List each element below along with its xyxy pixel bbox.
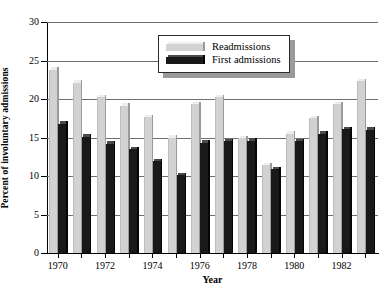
bar-first-admissions	[271, 169, 279, 253]
bar-group	[120, 22, 137, 253]
bar-readmissions	[191, 104, 199, 253]
bar-first-admissions	[177, 175, 185, 253]
bar-readmissions	[262, 165, 270, 253]
y-axis-tick-label: 25	[29, 56, 39, 66]
bar-chart: Percent of involuntary admissions 051015…	[0, 0, 392, 300]
x-axis-tick	[271, 253, 272, 258]
y-axis-title: Percent of involuntary admissions	[0, 22, 12, 253]
bar-first-admissions	[129, 149, 137, 253]
bar-first-admissions	[58, 124, 66, 253]
y-axis-tick-label: 0	[34, 248, 39, 258]
y-axis-title-text: Percent of involuntary admissions	[0, 67, 10, 208]
bar-group	[333, 22, 350, 253]
x-axis-tick	[129, 253, 130, 258]
bar-first-admissions	[247, 141, 255, 253]
y-axis-tick-label: 10	[29, 171, 39, 181]
bar-group	[97, 22, 114, 253]
y-axis-tick-label: 15	[29, 133, 39, 143]
bar-readmissions	[49, 70, 57, 253]
bar-readmissions	[73, 83, 81, 253]
bar-readmissions	[238, 138, 246, 253]
y-axis-tick-label: 20	[29, 94, 39, 104]
bar-first-admissions	[224, 141, 232, 253]
x-axis-tick	[200, 253, 201, 258]
x-axis-tick-label: 1980	[284, 261, 304, 271]
bar-first-admissions	[200, 143, 208, 253]
x-axis-tick-label: 1978	[237, 261, 257, 271]
bar-readmissions	[286, 134, 294, 253]
bar-group	[357, 22, 374, 253]
x-axis-title: Year	[47, 274, 378, 285]
x-axis-tick	[105, 253, 106, 258]
bar-readmissions	[333, 104, 341, 253]
x-axis-tick	[294, 253, 295, 258]
x-axis-tick	[318, 253, 319, 258]
bar-readmissions	[357, 81, 365, 253]
legend-swatch-first	[166, 57, 203, 64]
bar-group	[49, 22, 66, 253]
chart-legend: ReadmissionsFirst admissions	[158, 35, 290, 73]
bar-readmissions	[215, 97, 223, 253]
y-axis-tick-label: 30	[29, 17, 39, 27]
x-axis-tick-label: 1970	[48, 261, 68, 271]
bar-first-admissions	[342, 129, 350, 253]
legend-label: First admissions	[212, 55, 281, 66]
bar-first-admissions	[106, 144, 114, 253]
x-axis-tick	[81, 253, 82, 258]
x-axis-tick	[365, 253, 366, 258]
x-axis-tick	[342, 253, 343, 258]
x-axis-tick	[223, 253, 224, 258]
bar-readmissions	[120, 106, 128, 253]
bar-group	[309, 22, 326, 253]
x-axis-tick-label: 1972	[95, 261, 115, 271]
x-axis-tick-label: 1974	[142, 261, 162, 271]
bar-first-admissions	[318, 134, 326, 253]
bar-first-admissions	[366, 130, 374, 253]
x-axis-tick	[247, 253, 248, 258]
bar-first-admissions	[295, 141, 303, 253]
x-axis-tick	[152, 253, 153, 258]
bar-first-admissions	[82, 137, 90, 253]
x-axis-tick-label: 1982	[332, 261, 352, 271]
legend-item: First admissions	[166, 54, 281, 67]
y-axis-tick-label: 5	[34, 210, 39, 220]
bar-readmissions	[144, 117, 152, 253]
x-axis-tick-label: 1976	[190, 261, 210, 271]
bar-readmissions	[97, 97, 105, 253]
legend-swatch-read	[166, 44, 203, 51]
bar-readmissions	[168, 138, 176, 254]
x-axis-tick	[176, 253, 177, 258]
bar-readmissions	[309, 118, 317, 253]
bar-first-admissions	[153, 161, 161, 253]
legend-item: Readmissions	[166, 41, 281, 54]
bar-group	[73, 22, 90, 253]
x-axis-tick	[58, 253, 59, 258]
legend-label: Readmissions	[212, 42, 270, 53]
